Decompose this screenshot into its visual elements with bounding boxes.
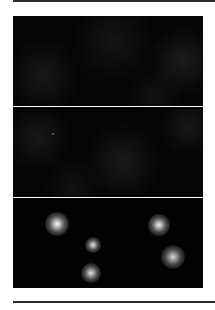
fluorescent-spot	[81, 263, 101, 283]
background-haze	[43, 157, 103, 197]
background-haze	[13, 36, 83, 106]
fluorescent-spot	[85, 237, 101, 253]
caption-area	[13, 290, 203, 298]
background-haze	[148, 26, 203, 96]
fluorescent-spot	[45, 212, 69, 236]
fluorescent-spot	[52, 133, 55, 136]
micrograph-figure	[13, 16, 203, 288]
top-rule	[13, 0, 215, 2]
micrograph-panel-2	[13, 107, 203, 197]
fluorescent-spot	[161, 245, 185, 269]
background-haze	[158, 107, 203, 157]
micrograph-panel-3	[13, 198, 203, 288]
background-haze	[123, 66, 183, 106]
background-haze	[68, 16, 158, 86]
background-haze	[13, 107, 73, 172]
fluorescent-spot	[148, 214, 170, 236]
micrograph-panel-1	[13, 16, 203, 106]
background-haze	[83, 122, 163, 197]
bottom-rule	[13, 301, 215, 303]
